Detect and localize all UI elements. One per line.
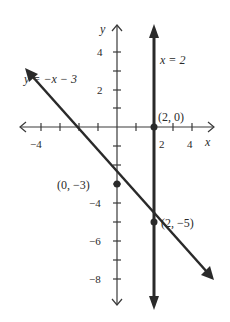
line-y-equals-neg-x-minus-3 <box>25 68 214 280</box>
x-tick-2: 2 <box>159 138 165 150</box>
y-tick-neg4: −4 <box>89 197 101 209</box>
y-tick-4: 4 <box>97 46 103 58</box>
line-x-equals-2 <box>149 24 159 310</box>
y-tick-neg6: −6 <box>89 235 101 247</box>
line-label-x-equals-2: x = 2 <box>159 53 185 67</box>
x-tick-neg4: −4 <box>30 138 42 150</box>
point-2-neg5 <box>151 219 158 226</box>
y-axis <box>112 25 122 305</box>
x-axis-label: x <box>204 135 211 149</box>
point-label-0-neg3: (0, −3) <box>57 178 90 192</box>
y-axis-label: y <box>99 22 106 36</box>
point-2-0 <box>151 124 158 131</box>
y-tick-neg8: −8 <box>89 273 101 285</box>
point-label-2-0: (2, 0) <box>158 110 184 124</box>
x-tick-4: 4 <box>187 138 193 150</box>
point-label-2-neg5: (2, −5) <box>161 216 194 230</box>
point-0-neg3 <box>114 181 121 188</box>
y-tick-2: 2 <box>97 84 103 96</box>
coordinate-plane: y x 4 2 −4 −6 −8 −4 2 4 y = −x − 3 x = 2… <box>0 0 230 322</box>
line-label-y-equals: y = −x − 3 <box>23 72 77 86</box>
